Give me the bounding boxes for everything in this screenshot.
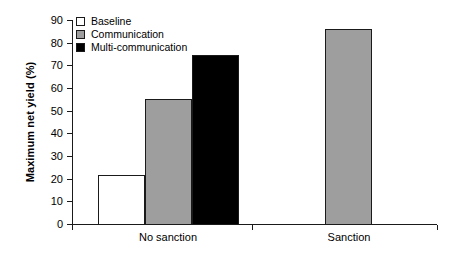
y-axis-tick-60 (67, 88, 72, 89)
y-axis-tick-50 (67, 111, 72, 112)
legend-swatch-communication (76, 30, 85, 39)
legend-swatch-multi-communication (76, 43, 85, 52)
y-axis-tick-10 (67, 201, 72, 202)
bar-no-sanction-baseline[interactable] (98, 175, 145, 225)
legend-swatch-baseline (76, 17, 85, 26)
y-axis-tick-label-30: 30 (23, 151, 63, 162)
y-axis-tick-70 (67, 65, 72, 66)
y-axis-tick-label-0: 0 (23, 219, 63, 230)
y-axis-tick-label-60: 60 (23, 83, 63, 94)
bar-sanction-communication[interactable] (325, 29, 372, 225)
legend-label-multi-communication: Multi-communication (91, 42, 187, 53)
y-axis-tick-label-50: 50 (23, 106, 63, 117)
legend: Baseline Communication Multi-communicati… (76, 15, 187, 54)
x-axis-tick-separator (252, 225, 253, 230)
legend-item-communication: Communication (76, 28, 187, 41)
x-axis-tick-end (437, 225, 438, 230)
y-axis-tick-80 (67, 43, 72, 44)
legend-item-baseline: Baseline (76, 15, 187, 28)
y-axis-tick-20 (67, 179, 72, 180)
y-axis-tick-label-90: 90 (23, 15, 63, 26)
y-axis-title: Maximum net yield (%) (22, 20, 38, 224)
y-axis-tick-label-70: 70 (23, 60, 63, 71)
bar-no-sanction-communication[interactable] (145, 99, 192, 225)
x-axis-label-no-sanction: No sanction (108, 231, 228, 244)
y-axis-tick-40 (67, 133, 72, 134)
y-axis-tick-label-10: 10 (23, 196, 63, 207)
bar-chart: Maximum net yield (%) 010203040506070809… (0, 0, 455, 258)
x-axis-tick-start (72, 225, 73, 230)
y-axis-tick-90 (67, 20, 72, 21)
legend-label-communication: Communication (91, 29, 164, 40)
y-axis-tick-30 (67, 156, 72, 157)
x-axis-label-sanction: Sanction (289, 231, 409, 244)
bar-no-sanction-multi-communication[interactable] (192, 55, 239, 225)
legend-item-multi-communication: Multi-communication (76, 41, 187, 54)
y-axis-tick-label-20: 20 (23, 174, 63, 185)
legend-label-baseline: Baseline (91, 16, 131, 27)
y-axis-tick-label-80: 80 (23, 38, 63, 49)
y-axis-line (72, 20, 73, 225)
y-axis-tick-label-40: 40 (23, 128, 63, 139)
